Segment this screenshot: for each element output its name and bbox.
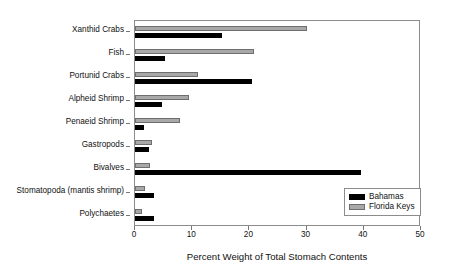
bar-group xyxy=(135,135,419,158)
y-axis-category-label: Penaeid Shrimp xyxy=(0,118,124,126)
bar-group xyxy=(135,67,419,90)
y-axis-category-label: Polychaetes xyxy=(0,210,124,218)
bar-bahamas xyxy=(135,125,144,130)
y-axis-tick xyxy=(126,123,130,124)
bar-bahamas xyxy=(135,56,165,61)
y-axis-tick xyxy=(126,54,130,55)
bar-florida-keys xyxy=(135,140,152,145)
legend-entry: Florida Keys xyxy=(349,202,415,212)
bar-florida-keys xyxy=(135,26,307,31)
bar-florida-keys xyxy=(135,118,180,123)
y-axis-tick xyxy=(126,31,130,32)
bar-florida-keys xyxy=(135,49,254,54)
y-axis-tick xyxy=(126,77,130,78)
chart-legend: BahamasFlorida Keys xyxy=(344,188,421,216)
legend-label: Bahamas xyxy=(369,193,404,201)
bar-florida-keys xyxy=(135,186,145,191)
bar-group xyxy=(135,158,419,181)
y-axis-category-label: Stomatopoda (mantis shrimp) xyxy=(0,187,124,195)
bar-group xyxy=(135,113,419,136)
bar-group xyxy=(135,90,419,113)
y-axis-labels: Xanthid CrabsFishPortunid CrabsAlpheid S… xyxy=(0,20,130,226)
bar-bahamas xyxy=(135,102,162,107)
y-axis-category-label: Xanthid Crabs xyxy=(0,26,124,34)
x-axis-tick-label: 30 xyxy=(301,231,310,239)
x-axis-tick-labels: 01020304050 xyxy=(134,231,420,243)
y-axis-tick xyxy=(126,169,130,170)
bar-bahamas xyxy=(135,147,149,152)
legend-label: Florida Keys xyxy=(369,203,415,211)
bar-florida-keys xyxy=(135,95,189,100)
y-axis-tick xyxy=(126,192,130,193)
y-axis-tick xyxy=(126,100,130,101)
y-axis-category-label: Alpheid Shrimp xyxy=(0,95,124,103)
legend-entry: Bahamas xyxy=(349,192,415,202)
y-axis-category-label: Fish xyxy=(0,49,124,57)
bar-bahamas xyxy=(135,193,154,198)
bar-bahamas xyxy=(135,216,154,221)
bar-florida-keys xyxy=(135,163,150,168)
x-axis-tick-label: 20 xyxy=(244,231,253,239)
bar-bahamas xyxy=(135,79,252,84)
x-axis-tick-label: 50 xyxy=(415,231,424,239)
y-axis-tick xyxy=(126,215,130,216)
x-axis-tick-label: 10 xyxy=(187,231,196,239)
bar-florida-keys xyxy=(135,72,198,77)
x-axis-tick-label: 40 xyxy=(358,231,367,239)
y-axis-category-label: Bivalves xyxy=(0,164,124,172)
x-axis-tick-label: 0 xyxy=(132,231,137,239)
bar-group xyxy=(135,44,419,67)
horizontal-bar-chart: Xanthid CrabsFishPortunid CrabsAlpheid S… xyxy=(0,0,454,275)
bar-bahamas xyxy=(135,33,222,38)
y-axis-tick xyxy=(126,146,130,147)
x-axis-title: Percent Weight of Total Stomach Contents xyxy=(134,251,420,262)
bar-bahamas xyxy=(135,170,361,175)
bar-florida-keys xyxy=(135,209,142,214)
legend-swatch-bahamas-icon xyxy=(349,194,365,200)
y-axis-category-label: Gastropods xyxy=(0,141,124,149)
legend-swatch-florida-keys-icon xyxy=(349,204,365,210)
bar-group xyxy=(135,21,419,44)
y-axis-category-label: Portunid Crabs xyxy=(0,72,124,80)
